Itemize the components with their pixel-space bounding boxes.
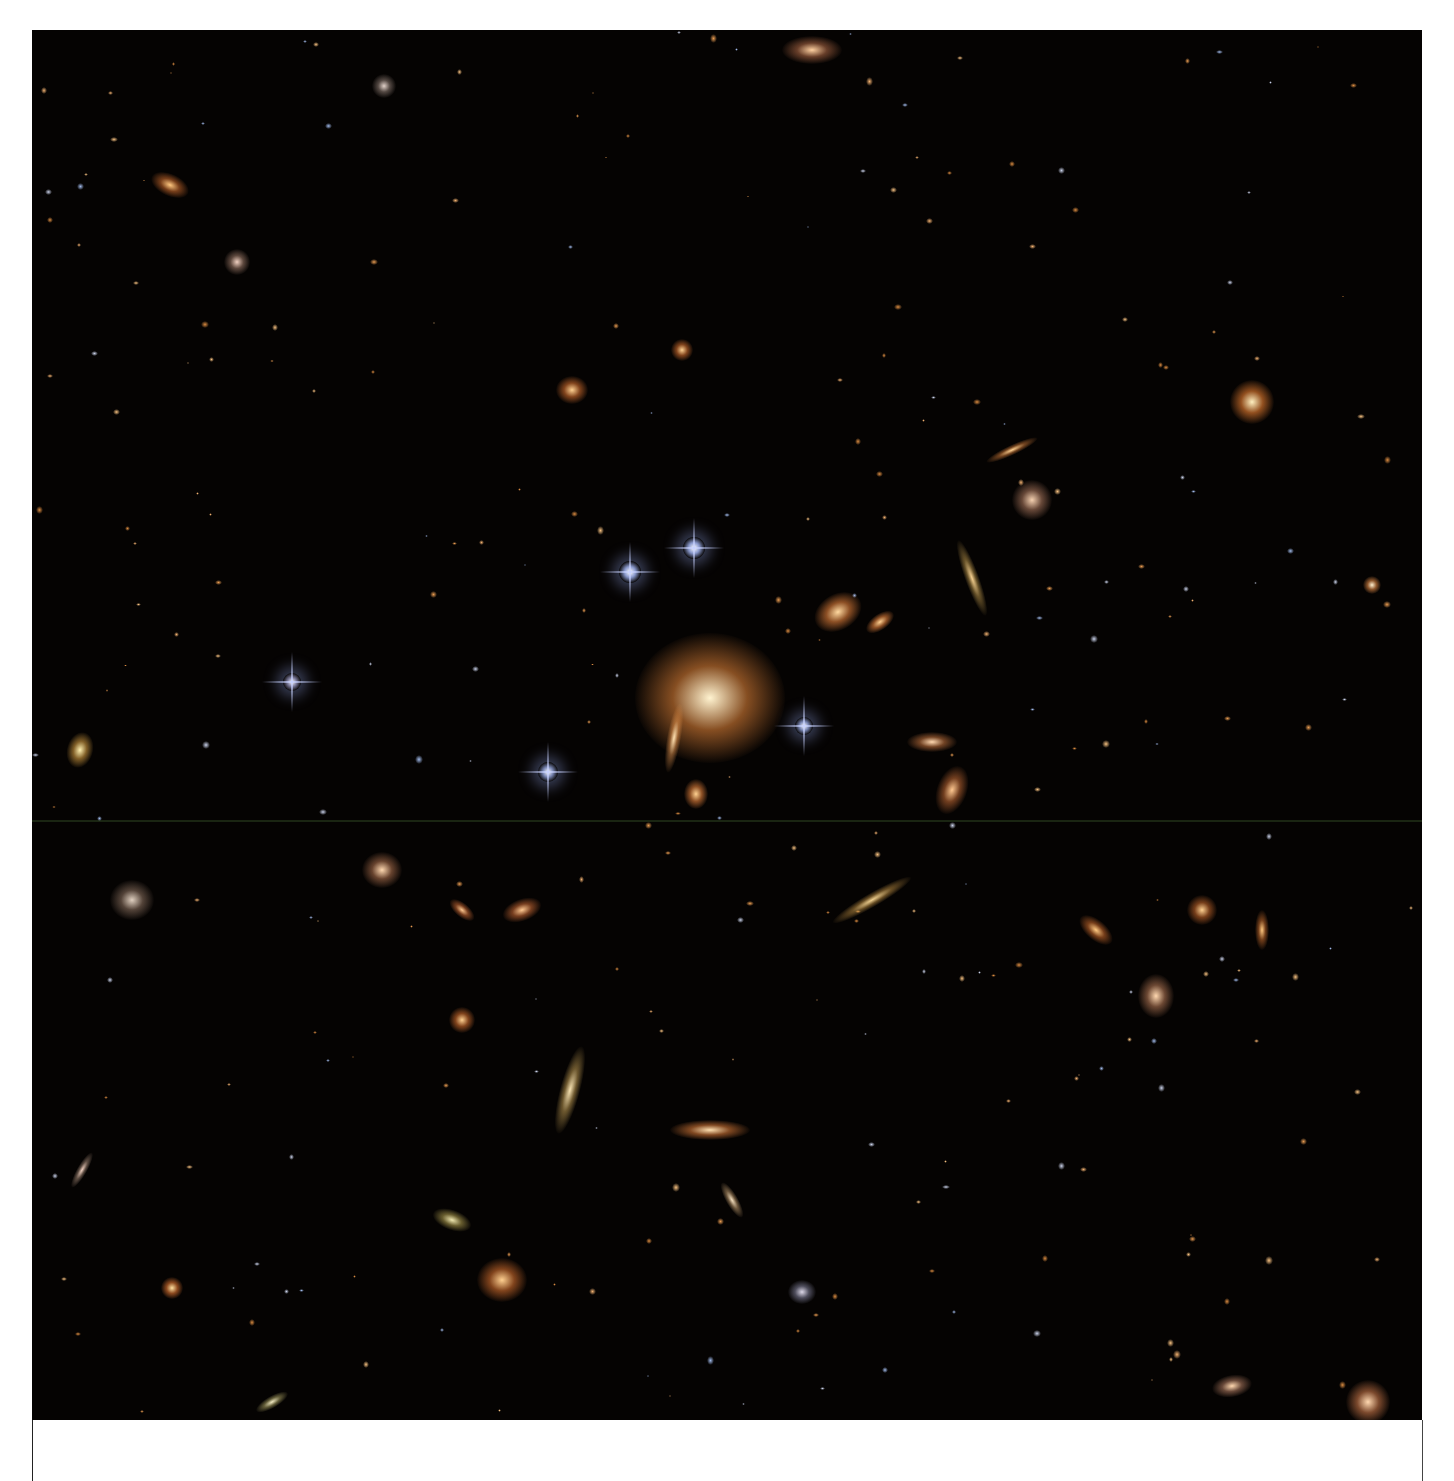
faint-galaxy (1167, 1339, 1175, 1347)
faint-galaxy (172, 62, 175, 65)
faint-galaxy (615, 967, 619, 970)
galaxy (1230, 380, 1274, 424)
galaxy (63, 729, 97, 771)
faint-galaxy (732, 1058, 734, 1060)
faint-galaxy (52, 806, 56, 809)
faint-galaxy (430, 591, 436, 598)
faint-galaxy (1090, 635, 1098, 643)
faint-galaxy (818, 639, 821, 641)
faint-galaxy (1058, 167, 1065, 174)
faint-galaxy (1247, 191, 1251, 194)
galaxy (1363, 576, 1381, 594)
galaxy (372, 74, 396, 98)
faint-galaxy (882, 515, 888, 520)
lensed-arc (952, 538, 993, 618)
faint-galaxy (1342, 296, 1344, 297)
faint-galaxy (669, 1395, 671, 1397)
faint-galaxy (807, 226, 809, 228)
faint-galaxy (902, 103, 908, 108)
faint-galaxy (1058, 1162, 1066, 1170)
galaxy (1012, 480, 1052, 520)
faint-galaxy (710, 34, 717, 42)
faint-galaxy (41, 87, 47, 93)
diffraction-spike (547, 742, 549, 802)
galaxy (684, 779, 708, 809)
faint-galaxy (1183, 586, 1189, 592)
faint-galaxy (317, 920, 319, 922)
faint-galaxy (672, 1183, 679, 1192)
galaxy (670, 1120, 750, 1140)
faint-galaxy (107, 977, 113, 983)
diffraction-spike (803, 696, 805, 756)
galaxy (549, 1044, 592, 1136)
faint-galaxy (785, 628, 791, 634)
faint-galaxy (1129, 990, 1133, 994)
galaxy (929, 761, 974, 818)
faint-galaxy (1216, 50, 1222, 54)
galaxy (556, 376, 588, 404)
faint-galaxy (571, 511, 578, 517)
faint-galaxy (912, 909, 917, 913)
faint-galaxy (186, 1165, 193, 1169)
faint-galaxy (209, 513, 212, 516)
galaxy (1138, 974, 1174, 1018)
faint-galaxy (1104, 580, 1109, 584)
faint-galaxy (469, 760, 472, 763)
faint-galaxy (747, 196, 750, 198)
faint-galaxy (916, 1200, 921, 1203)
faint-galaxy (143, 180, 145, 181)
faint-galaxy (874, 831, 879, 836)
faint-galaxy (1138, 564, 1146, 570)
faint-galaxy (104, 1096, 107, 1099)
faint-galaxy (649, 1010, 654, 1013)
faint-galaxy (978, 971, 981, 974)
faint-galaxy (312, 389, 316, 393)
faint-galaxy (443, 1083, 449, 1088)
galaxy (1255, 910, 1269, 950)
faint-galaxy (717, 1218, 724, 1225)
faint-galaxy (1054, 488, 1061, 496)
faint-galaxy (136, 603, 141, 607)
faint-galaxy (124, 665, 126, 666)
faint-galaxy (1269, 81, 1272, 84)
faint-galaxy (1163, 365, 1169, 370)
faint-galaxy (232, 1287, 235, 1289)
faint-galaxy (1300, 1138, 1307, 1145)
faint-galaxy (942, 1185, 950, 1190)
faint-galaxy (922, 969, 926, 974)
faint-galaxy (452, 198, 459, 203)
faint-galaxy (597, 526, 604, 535)
faint-galaxy (949, 822, 957, 828)
faint-galaxy (1191, 599, 1194, 603)
faint-galaxy (284, 1289, 289, 1293)
faint-galaxy (369, 662, 372, 666)
faint-galaxy (707, 1356, 715, 1365)
faint-galaxy (77, 183, 83, 190)
galaxy (161, 1277, 183, 1299)
faint-galaxy (1015, 962, 1022, 968)
faint-galaxy (1191, 490, 1195, 493)
faint-galaxy (1072, 207, 1079, 212)
faint-galaxy (959, 975, 965, 982)
diffraction-spike (693, 518, 695, 578)
faint-galaxy (456, 881, 463, 887)
faint-galaxy (202, 741, 210, 750)
faint-galaxy (579, 876, 584, 882)
foreground-star (538, 762, 558, 782)
faint-galaxy (440, 1328, 444, 1332)
faint-galaxy (452, 542, 456, 546)
faint-galaxy (591, 664, 594, 666)
faint-galaxy (125, 526, 130, 531)
faint-galaxy (944, 1160, 947, 1163)
faint-galaxy (1265, 1256, 1273, 1265)
foreground-star (795, 717, 813, 735)
faint-galaxy (534, 1070, 539, 1073)
faint-galaxy (272, 324, 278, 331)
faint-galaxy (1305, 724, 1312, 731)
faint-galaxy (876, 471, 883, 477)
faint-galaxy (326, 1059, 330, 1062)
galaxy (477, 1258, 527, 1302)
faint-galaxy (110, 137, 118, 143)
faint-galaxy (353, 1275, 356, 1278)
galaxy (224, 249, 250, 275)
